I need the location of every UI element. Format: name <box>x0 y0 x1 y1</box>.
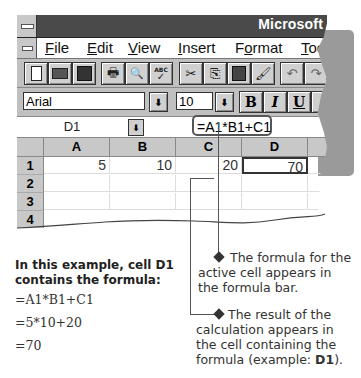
paintbrush-icon: 🖌 <box>255 66 272 81</box>
formula-bar: D1 ⬇ =A1*B1+C1 <box>17 117 327 138</box>
menu-edit[interactable]: Edit <box>87 39 113 56</box>
cell-e3[interactable] <box>308 193 327 210</box>
cell-d2[interactable] <box>242 175 308 192</box>
formatting-toolbar: Arial ⬇ 10 ⬇ B I U <box>17 88 327 117</box>
cell-d3[interactable] <box>242 193 308 210</box>
cell-b1[interactable]: 10 <box>110 157 176 174</box>
cell-a1[interactable]: 5 <box>44 157 110 174</box>
font-name-dropdown[interactable]: ⬇ <box>149 92 168 112</box>
window-title: Microsoft <box>258 16 323 32</box>
menu-format[interactable]: Format <box>235 39 283 56</box>
font-size-dropdown[interactable]: ⬇ <box>215 92 234 112</box>
new-button[interactable] <box>24 62 48 85</box>
standard-toolbar: 🖶 🔍 ABC✓ ✂ ⎘ 🖌 ↶ ↷ <box>17 59 327 88</box>
dropdown-arrow-icon: ⬇ <box>154 97 162 108</box>
cell-c3[interactable] <box>176 193 242 210</box>
floppy-disk-icon <box>77 66 92 81</box>
format-painter-button[interactable]: 🖌 <box>251 62 275 85</box>
row-header-2[interactable]: 2 <box>17 175 44 193</box>
paste-button[interactable] <box>227 62 251 85</box>
formula-input[interactable]: =A1*B1+C1 <box>192 115 272 136</box>
copy-button[interactable]: ⎘ <box>203 62 227 85</box>
example-step-2: =5*10+20 <box>15 311 174 334</box>
cell-e2[interactable] <box>308 175 327 192</box>
cell-a3[interactable] <box>44 193 110 210</box>
new-file-icon <box>31 66 42 81</box>
printer-icon: 🖶 <box>107 63 119 85</box>
callout-line-formula <box>218 122 219 257</box>
select-all-corner[interactable] <box>17 138 44 157</box>
undo-icon: ↶ <box>287 66 298 81</box>
cell-b3[interactable] <box>110 193 176 210</box>
cell-b2[interactable] <box>110 175 176 192</box>
row-header-3[interactable]: 3 <box>17 193 44 211</box>
title-bar: Microsoft <box>17 15 327 38</box>
dropdown-arrow-icon: ⬇ <box>132 123 140 133</box>
print-preview-icon: 🔍 <box>130 67 144 80</box>
callout-line-result-top <box>190 178 214 179</box>
system-menu-button[interactable] <box>17 15 37 37</box>
example-step-3: =70 <box>15 334 174 357</box>
callout-result: The result of the calculation appears in… <box>196 307 343 367</box>
spellcheck-icon: ABC✓ <box>154 66 168 81</box>
font-name-input[interactable]: Arial <box>23 92 145 110</box>
name-box-dropdown[interactable]: ⬇ <box>128 119 144 136</box>
menu-bar: File Edit View Insert Format Tool <box>17 38 327 59</box>
folder-open-icon <box>52 68 68 79</box>
bold-button[interactable]: B <box>239 91 263 113</box>
excel-window: Microsoft File Edit View Insert Format T… <box>17 15 327 228</box>
redo-icon: ↷ <box>311 66 322 81</box>
scissors-icon: ✂ <box>186 66 197 81</box>
column-header-b[interactable]: B <box>110 138 176 157</box>
print-button[interactable]: 🖶 <box>101 62 125 85</box>
column-header-a[interactable]: A <box>44 138 110 157</box>
cut-button[interactable]: ✂ <box>179 62 203 85</box>
underline-button[interactable]: U <box>287 91 311 113</box>
menu-file[interactable]: File <box>45 39 69 56</box>
save-button[interactable] <box>72 62 96 85</box>
dropdown-arrow-icon: ⬇ <box>220 97 228 108</box>
menu-insert[interactable]: Insert <box>178 39 216 56</box>
undo-button[interactable]: ↶ <box>280 62 304 85</box>
example-step-1: =A1*B1+C1 <box>15 288 174 311</box>
cell-d1[interactable]: 70 <box>242 157 308 174</box>
font-size-input[interactable]: 10 <box>176 92 213 110</box>
spelling-button[interactable]: ABC✓ <box>149 62 173 85</box>
cell-c1[interactable]: 20 <box>176 157 242 174</box>
column-header-e[interactable] <box>308 138 327 157</box>
column-header-d[interactable]: D <box>242 138 308 157</box>
callout-formula-bar: The formula for the active cell appears … <box>196 250 351 295</box>
italic-button[interactable]: I <box>263 91 287 113</box>
menu-view[interactable]: View <box>128 39 160 56</box>
callout-line-result <box>190 178 191 315</box>
print-preview-button[interactable]: 🔍 <box>125 62 149 85</box>
open-button[interactable] <box>48 62 72 85</box>
clipboard-icon <box>232 66 246 81</box>
name-box[interactable]: D1 <box>17 117 127 137</box>
cell-a2[interactable] <box>44 175 110 192</box>
example-heading-line1: In this example, cell D1 <box>15 258 174 273</box>
row-header-1[interactable]: 1 <box>17 157 44 175</box>
torn-edge <box>15 212 330 232</box>
document-menu-button[interactable] <box>17 38 37 58</box>
example-note: In this example, cell D1 contains the fo… <box>15 258 174 357</box>
example-heading-line2: contains the formula: <box>15 273 174 288</box>
copy-icon: ⎘ <box>210 66 220 82</box>
column-header-c[interactable]: C <box>176 138 242 157</box>
